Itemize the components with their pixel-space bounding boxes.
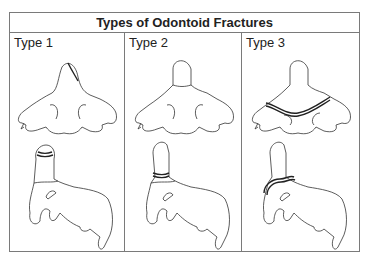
type-1-fracture-illustration (10, 33, 125, 253)
panel-type-1: Type 1 (10, 33, 125, 251)
panel-type-2: Type 2 (125, 33, 242, 251)
type-3-fracture-illustration (242, 33, 359, 253)
figure-title: Types of Odontoid Fractures (10, 13, 359, 33)
panel-type-3: Type 3 (242, 33, 359, 251)
figure-frame: Types of Odontoid Fractures Type 1 Type … (9, 12, 360, 252)
type-2-fracture-illustration (125, 33, 242, 253)
